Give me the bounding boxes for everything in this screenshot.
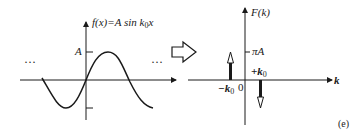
neg-freq-label: −k0 [218,83,234,96]
pos-freq-label: +k0 [251,66,267,79]
function-label-prefix: f(x)=A sin [92,16,140,28]
impulse-negative-k0 [228,52,234,80]
ellipsis-left: ··· [24,56,36,68]
impulse-positive-k0 [258,80,264,108]
left-plot [20,22,176,120]
neg-freq-sub: 0 [230,87,234,96]
y-axis-label-text: F(k) [251,6,270,18]
panel-label: (e) [338,119,349,129]
x-axis-label: k [334,75,340,86]
amplitude-label: A [75,46,82,57]
pos-freq-sub: 0 [263,70,267,79]
y-axis-label: F(k) [251,7,270,18]
function-label-suffix: x [148,16,153,28]
fourier-transform-arrow-icon [172,42,196,62]
pos-freq-label-text: +k [251,65,263,77]
neg-freq-label-text: −k [218,82,230,94]
origin-label: 0 [238,82,244,93]
function-label: f(x)=A sin k0x [92,17,153,30]
ellipsis-right: ··· [151,56,163,68]
diagram-canvas [0,0,363,137]
pi-a-label: πA [252,46,264,57]
